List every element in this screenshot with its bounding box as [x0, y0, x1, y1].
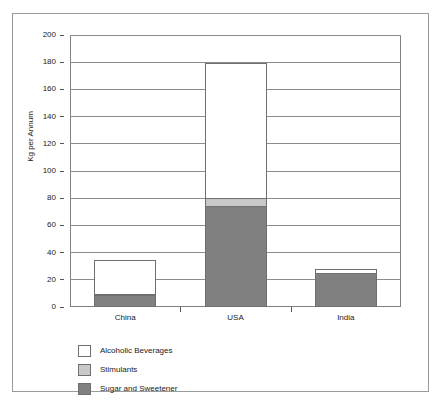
- chart-legend: Alcoholic BeveragesStimulantsSugar and S…: [78, 341, 177, 398]
- legend-item[interactable]: Stimulants: [78, 360, 177, 379]
- legend-label: Sugar and Sweetener: [100, 384, 177, 393]
- y-axis-tick-label: 140: [43, 113, 56, 121]
- bar-group-china: [94, 35, 156, 307]
- y-axis-tick-labels: 200180160140120100806040200: [37, 35, 64, 307]
- bar-group-india: [315, 35, 377, 307]
- bar-stack: [315, 269, 377, 307]
- chart-figure: Kg per Annum 200180160140120100806040200…: [12, 13, 429, 392]
- y-axis-tick-label: 80: [47, 194, 56, 202]
- y-axis-tick: [60, 89, 64, 90]
- y-axis-tick-label: 20: [47, 276, 56, 284]
- legend-swatch-icon: [78, 345, 91, 357]
- y-axis-tick: [60, 116, 64, 117]
- x-axis-label-india: India: [306, 313, 386, 322]
- x-axis-separator-tick: [291, 307, 292, 312]
- y-axis-tick: [60, 35, 64, 36]
- bar-stack: [205, 63, 267, 307]
- bar-group-usa: [205, 35, 267, 307]
- bar-segment-sugar-and-sweetener[interactable]: [94, 295, 156, 307]
- bar-segment-sugar-and-sweetener[interactable]: [205, 206, 267, 307]
- y-axis-tick: [60, 307, 64, 308]
- bar-segment-alcoholic-beverages[interactable]: [94, 260, 156, 295]
- y-axis-tick-label: 0: [52, 303, 56, 311]
- bar-stack: [94, 260, 156, 307]
- y-axis-tick-label: 160: [43, 85, 56, 93]
- bar-segment-sugar-and-sweetener[interactable]: [315, 273, 377, 307]
- x-axis-label-china: China: [85, 313, 165, 322]
- y-axis-title: Kg per Annum: [26, 97, 35, 177]
- y-axis-tick: [60, 171, 64, 172]
- x-axis-label-usa: USA: [196, 313, 276, 322]
- y-axis-tick-label: 100: [43, 167, 56, 175]
- y-axis-tick-label: 120: [43, 140, 56, 148]
- y-axis-tick-label: 200: [43, 31, 56, 39]
- y-axis-tick-label: 60: [47, 221, 56, 229]
- legend-item[interactable]: Alcoholic Beverages: [78, 341, 177, 360]
- y-axis-tick: [60, 252, 64, 253]
- legend-swatch-icon: [78, 383, 91, 395]
- y-axis-tick: [60, 62, 64, 63]
- legend-label: Alcoholic Beverages: [100, 346, 172, 355]
- legend-item[interactable]: Sugar and Sweetener: [78, 379, 177, 398]
- y-axis-tick: [60, 225, 64, 226]
- y-axis-tick-label: 180: [43, 58, 56, 66]
- plot-area: [70, 35, 401, 307]
- y-axis-tick: [60, 279, 64, 280]
- y-axis-tick: [60, 198, 64, 199]
- x-axis-separator-tick: [180, 307, 181, 312]
- legend-label: Stimulants: [100, 365, 137, 374]
- y-axis-tick: [60, 143, 64, 144]
- bar-segment-alcoholic-beverages[interactable]: [205, 63, 267, 199]
- legend-swatch-icon: [78, 364, 91, 376]
- y-axis-tick-label: 40: [47, 249, 56, 257]
